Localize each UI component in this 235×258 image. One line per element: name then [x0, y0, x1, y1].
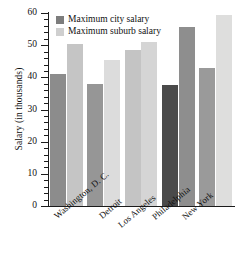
plot-area — [48, 13, 234, 206]
y-axis-major-tick — [41, 13, 48, 14]
legend-item-label: Maximum suburb salary — [68, 27, 161, 37]
y-axis-major-tick — [41, 77, 48, 78]
y-axis-tick-label: 10 — [0, 169, 37, 179]
y-axis-tick-label: 60 — [0, 8, 37, 18]
bar-suburb-salary — [67, 44, 83, 206]
legend-swatch-icon — [56, 28, 64, 36]
bar-chart: Salary (in thousands) 0102030405060 Maxi… — [0, 0, 235, 258]
y-axis-major-tick — [41, 206, 48, 207]
bar-suburb-salary — [104, 60, 120, 206]
y-axis-tick-label: 20 — [0, 137, 37, 147]
bar-city-salary — [199, 68, 215, 206]
y-axis-tick-label: 30 — [0, 105, 37, 115]
y-axis-tick-label: 0 — [0, 201, 37, 211]
bar-suburb-salary — [216, 15, 232, 206]
y-axis-major-tick — [41, 174, 48, 175]
bar-city-salary — [50, 74, 66, 206]
legend-item: Maximum suburb salary — [56, 26, 161, 37]
y-axis-tick-label: 50 — [0, 40, 37, 50]
bar-suburb-salary — [179, 27, 195, 206]
y-axis-major-tick — [41, 110, 48, 111]
chart-legend: Maximum city salaryMaximum suburb salary — [56, 14, 161, 37]
legend-item-label: Maximum city salary — [68, 15, 149, 25]
y-axis-major-tick — [41, 45, 48, 46]
bar-suburb-salary — [141, 42, 157, 206]
legend-swatch-icon — [56, 16, 64, 24]
bar-city-salary — [125, 50, 141, 206]
y-axis-tick-label: 40 — [0, 72, 37, 82]
y-axis-major-tick — [41, 142, 48, 143]
bar-city-salary — [162, 85, 178, 206]
legend-item: Maximum city salary — [56, 14, 161, 25]
